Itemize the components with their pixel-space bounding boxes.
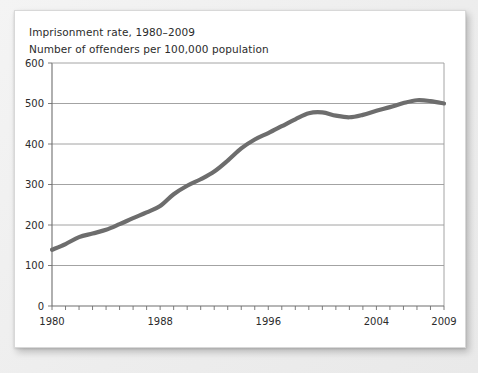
- y-axis-ticks: [48, 63, 52, 306]
- y-tick-label: 0: [38, 301, 44, 312]
- x-tick-label: 2004: [364, 316, 389, 327]
- chart-card-inner: Imprisonment rate, 1980–2009 Number of o…: [15, 11, 465, 347]
- plot-area: 0100200300400500600 19801988199620042009: [15, 11, 467, 349]
- line-chart-svg: 0100200300400500600 19801988199620042009: [15, 11, 467, 349]
- x-tick-label: 1980: [39, 316, 64, 327]
- x-tick-label: 2009: [431, 316, 456, 327]
- imprisonment-rate-line: [52, 100, 444, 250]
- gridlines: [52, 104, 444, 266]
- x-axis-ticks: [52, 306, 444, 310]
- y-tick-label: 500: [25, 98, 44, 109]
- y-tick-label: 600: [25, 58, 44, 69]
- chart-card: Imprisonment rate, 1980–2009 Number of o…: [14, 10, 466, 348]
- y-axis-labels: 0100200300400500600: [25, 58, 44, 312]
- y-tick-label: 200: [25, 220, 44, 231]
- y-tick-label: 400: [25, 139, 44, 150]
- x-axis-labels: 19801988199620042009: [39, 316, 456, 327]
- y-tick-label: 300: [25, 179, 44, 190]
- x-tick-label: 1996: [256, 316, 281, 327]
- x-tick-label: 1988: [147, 316, 172, 327]
- y-tick-label: 100: [25, 260, 44, 271]
